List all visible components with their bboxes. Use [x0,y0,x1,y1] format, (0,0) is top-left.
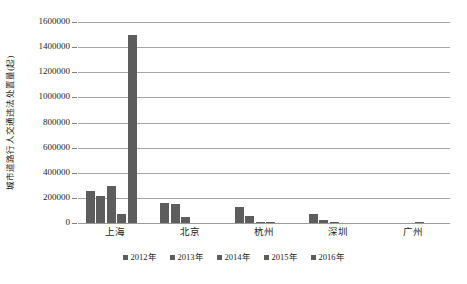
bar-group [86,22,137,223]
bar [330,222,339,223]
legend-swatch [123,255,128,260]
legend-label: 2016年 [319,252,345,262]
bar [266,222,275,223]
bar [107,186,116,223]
bar-group [160,22,211,223]
y-axis-tick-label: 800000 [4,118,70,127]
bar-group [383,22,434,223]
x-axis-category-label: 广州 [376,227,450,238]
legend-item: 2014年 [217,252,251,262]
legend-swatch [170,255,175,260]
legend-label: 2013年 [178,252,204,262]
legend-item: 2016年 [311,252,345,262]
legend: 2012年2013年2014年2015年2016年 [0,252,467,262]
y-axis-tick-mark [72,198,77,199]
bar [256,222,265,223]
bar [171,204,180,223]
bar [235,207,244,223]
legend-label: 2015年 [272,252,298,262]
legend-item: 2012年 [123,252,157,262]
bar [96,196,105,223]
y-axis-tick-mark [72,123,77,124]
legend-item: 2015年 [264,252,298,262]
legend-label: 2012年 [131,252,157,262]
y-axis-tick-mark [72,47,77,48]
bar [160,203,169,223]
bar-chart: 城市道路行人交通违法处置量(起) 16000001400000120000010… [0,0,467,284]
y-axis-tick-mark [72,97,77,98]
legend-swatch [217,255,222,260]
y-axis-tick-label: 1600000 [4,17,70,26]
bar [415,222,424,223]
x-axis-category-label: 北京 [152,227,226,238]
legend-label: 2014年 [225,252,251,262]
y-axis-tick-mark [72,148,77,149]
bar-group [235,22,286,223]
legend-swatch [311,255,316,260]
y-axis-tick-mark [72,72,77,73]
y-axis-tick-label: 1000000 [4,92,70,101]
y-axis-tick-label: 600000 [4,143,70,152]
y-axis-tick-label: 1400000 [4,42,70,51]
bar [181,217,190,223]
bar [117,214,126,223]
plot-area [78,22,450,223]
y-axis-tick-mark [72,173,77,174]
bar [319,220,328,223]
y-axis-tick-mark [72,22,77,23]
bar-group [309,22,360,223]
bar [128,35,137,223]
gridline [78,223,450,224]
y-axis-tick-label: 200000 [4,193,70,202]
y-axis-tick-label: 0 [4,218,70,227]
bar [86,191,95,223]
x-axis-category-label: 杭州 [227,227,301,238]
x-axis-category-label: 深圳 [301,227,375,238]
legend-item: 2013年 [170,252,204,262]
x-axis-category-label: 上海 [78,227,152,238]
legend-swatch [264,255,269,260]
y-axis-tick-label: 1200000 [4,67,70,76]
bar [309,214,318,223]
y-axis-tick-mark [72,223,77,224]
bar [245,216,254,223]
y-axis-tick-label: 400000 [4,168,70,177]
